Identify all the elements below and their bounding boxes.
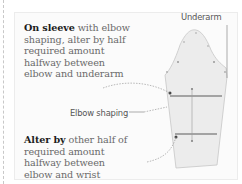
annotation-top: On sleeve with elbow shaping, alter by h… (24, 22, 134, 80)
upper-marker-dot (169, 92, 172, 95)
annotation-bottom-bold: Alter by (24, 134, 66, 145)
annotation-top-bold: On sleeve (24, 22, 75, 33)
elbow-shaping-label: Elbow shaping (70, 108, 128, 118)
annotation-bottom: Alter by other half of required amount h… (24, 134, 134, 180)
underarm-label: Underarm (181, 12, 221, 22)
sleeve-outline (165, 30, 227, 168)
leader-top (103, 83, 170, 93)
leader-bottom (147, 137, 176, 162)
